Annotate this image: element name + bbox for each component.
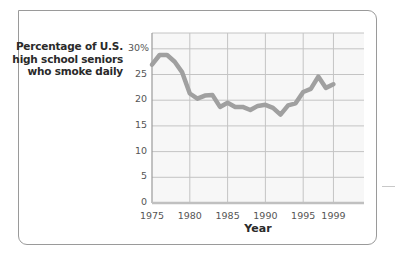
line-chart <box>0 0 395 258</box>
